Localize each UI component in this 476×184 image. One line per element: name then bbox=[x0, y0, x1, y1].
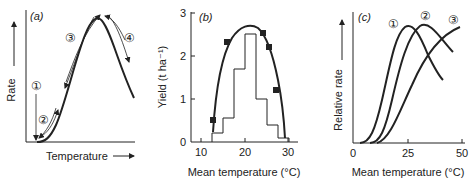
y-axis-label: Rate bbox=[5, 78, 17, 101]
y-tick-3: 3 bbox=[180, 7, 186, 19]
data-point bbox=[266, 44, 272, 50]
x-axis-label: Temperature bbox=[46, 150, 108, 162]
rate-curve bbox=[37, 18, 134, 142]
x-axis-label: Mean temperature (°C) bbox=[188, 166, 301, 178]
mark-2: ② bbox=[38, 113, 49, 127]
x-tick-20: 20 bbox=[239, 146, 251, 158]
panel-b: 3 2 1 0 10 20 30 Mean temperature (°C) Y… bbox=[156, 7, 300, 178]
y-tick-1: 1 bbox=[180, 93, 186, 105]
y-axis-label: Relative rate bbox=[332, 69, 344, 131]
panel-label: (b) bbox=[199, 11, 213, 23]
x-tick-0: 0 bbox=[350, 147, 356, 159]
x-tick-50: 50 bbox=[456, 147, 468, 159]
mark-3: ③ bbox=[448, 13, 459, 27]
y-axis-label: Yield (t ha⁻¹) bbox=[156, 46, 168, 108]
fit-curve bbox=[213, 26, 285, 138]
x-axis-label: Mean temperature (°C) bbox=[352, 166, 465, 178]
arrow-4b-icon bbox=[105, 16, 125, 40]
panel-label: (a) bbox=[30, 10, 44, 22]
panel-c: 0 25 50 Mean temperature (°C) Relative r… bbox=[332, 9, 468, 178]
data-point bbox=[210, 117, 216, 123]
mark-3: ③ bbox=[65, 31, 76, 45]
mark-4: ④ bbox=[124, 31, 135, 45]
figure: (a) Rate Temperature ① ② ③ ④ 3 2 1 0 bbox=[0, 0, 476, 184]
data-point bbox=[260, 30, 266, 36]
data-point bbox=[224, 39, 230, 45]
panel-label: (c) bbox=[358, 11, 371, 23]
mark-1: ① bbox=[31, 79, 42, 93]
data-point bbox=[273, 87, 279, 93]
x-tick-25: 25 bbox=[402, 147, 414, 159]
y-tick-0: 0 bbox=[180, 136, 186, 148]
x-tick-30: 30 bbox=[282, 146, 294, 158]
x-tick-10: 10 bbox=[195, 146, 207, 158]
y-tick-2: 2 bbox=[180, 50, 186, 62]
mark-1: ① bbox=[388, 17, 399, 31]
mark-2: ② bbox=[420, 9, 431, 23]
curve-1 bbox=[360, 26, 443, 143]
panel-a: (a) Rate Temperature ① ② ③ ④ bbox=[5, 10, 135, 162]
